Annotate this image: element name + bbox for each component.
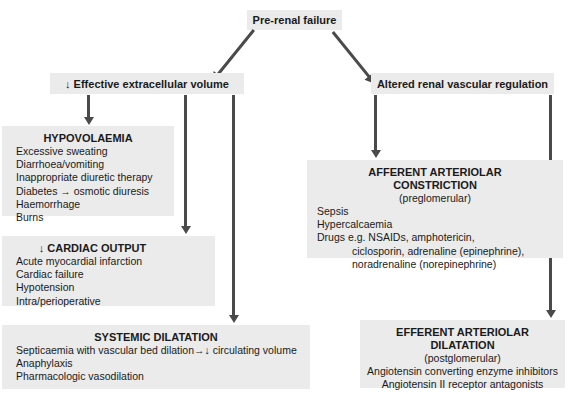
node-pre-renal-failure-label: Pre-renal failure xyxy=(253,14,337,26)
node-altered-renal-vascular-regulation: Altered renal vascular regulation xyxy=(371,73,554,94)
list-item: Haemorrhage xyxy=(16,198,174,211)
node-cardiac-output: ↓ CARDIAC OUTPUT Acute myocardial infarc… xyxy=(2,236,215,306)
node-afferent-arteriolar-constriction: AFFERENT ARTERIOLAR CONSTRICTION (preglo… xyxy=(307,160,563,258)
node-efferent-arteriolar-dilatation-title: EFFERENT ARTERIOLAR DILATATION xyxy=(365,326,565,352)
node-effective-extracellular-volume: ↓ Effective extracellular volume xyxy=(50,73,244,94)
list-item: Septicaemia with vascular bed dilation→↓… xyxy=(16,344,310,357)
list-item: Anaphylaxis xyxy=(16,357,310,370)
list-item: Inappropriate diuretic therapy xyxy=(16,171,174,184)
node-altered-renal-vascular-regulation-label: Altered renal vascular regulation xyxy=(377,78,548,90)
list-item: Pharmacologic vasodilation xyxy=(16,370,310,383)
node-hypovolaemia-title: HYPOVOLAEMIA xyxy=(16,132,174,145)
node-hypovolaemia: HYPOVOLAEMIA Excessive sweating Diarrhoe… xyxy=(2,126,174,216)
node-cardiac-output-title: ↓ CARDIAC OUTPUT xyxy=(16,242,215,255)
list-item: Burns xyxy=(16,211,174,224)
list-item: Angiotensin converting enzyme inhibitors xyxy=(365,365,565,378)
list-item: Cardiac failure xyxy=(16,268,215,281)
node-efferent-arteriolar-dilatation-subtitle: (postglomerular) xyxy=(365,352,565,365)
list-item: Excessive sweating xyxy=(16,145,174,158)
list-item: Diarrhoea/vomiting xyxy=(16,158,174,171)
node-effective-extracellular-volume-label: ↓ Effective extracellular volume xyxy=(65,78,229,90)
list-item: Acute myocardial infarction xyxy=(16,255,215,268)
list-item: Diabetes → osmotic diuresis xyxy=(16,185,174,198)
node-efferent-arteriolar-dilatation: EFFERENT ARTERIOLAR DILATATION (postglom… xyxy=(360,320,565,388)
node-pre-renal-failure: Pre-renal failure xyxy=(247,10,342,30)
list-item: Drugs e.g. NSAIDs, amphotericin, xyxy=(317,231,563,244)
list-item: Sepsis xyxy=(317,205,563,218)
list-item: ciclosporin, adrenaline (epinephrine), xyxy=(317,245,563,258)
list-item: Hypercalcaemia xyxy=(317,218,563,231)
list-item: Hypotension xyxy=(16,281,215,294)
node-afferent-arteriolar-constriction-title: AFFERENT ARTERIOLAR CONSTRICTION xyxy=(317,166,563,192)
list-item: Angiotensin II receptor antagonists xyxy=(365,378,565,391)
flowchart-canvas: Pre-renal failure ↓ Effective extracellu… xyxy=(0,0,569,394)
node-afferent-arteriolar-constriction-subtitle: (preglomerular) xyxy=(317,192,563,205)
list-item: Intra/perioperative xyxy=(16,295,215,308)
node-systemic-dilatation: SYSTEMIC DILATATION Septicaemia with vas… xyxy=(2,325,310,389)
node-systemic-dilatation-title: SYSTEMIC DILATATION xyxy=(16,331,310,344)
list-item: noradrenaline (norepinephrine) xyxy=(317,258,563,271)
